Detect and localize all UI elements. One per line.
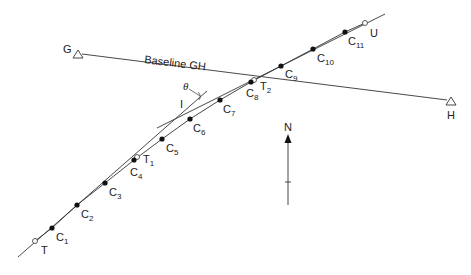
label-c2: C2 — [81, 208, 94, 223]
point-c4 — [131, 157, 136, 162]
point-c11 — [342, 29, 347, 34]
label-c8: C8 — [246, 87, 259, 102]
label-h: H — [447, 109, 455, 121]
point-c3 — [102, 180, 107, 185]
point-c2 — [74, 202, 79, 207]
baseline-label: Baseline GH — [144, 53, 207, 72]
label-t: T — [41, 244, 48, 256]
point-c7 — [217, 97, 222, 102]
label-u: U — [370, 27, 378, 39]
label-c4: C4 — [130, 166, 143, 181]
label-c6: C6 — [193, 122, 206, 137]
baseline-gh — [82, 54, 447, 100]
label-i: I — [180, 98, 183, 110]
point-c5 — [159, 136, 164, 141]
label-g: G — [63, 43, 72, 55]
station-g-triangle-icon — [73, 50, 83, 58]
point-c1 — [49, 225, 54, 230]
point-c8 — [248, 79, 253, 84]
survey-diagram: G H Baseline GH θ I T T1 T2 U C1 C2 C3 C… — [0, 0, 471, 275]
station-h-triangle-icon — [446, 97, 456, 105]
label-t2: T2 — [260, 80, 272, 95]
north-label: N — [284, 121, 292, 133]
label-c11: C11 — [348, 35, 365, 50]
point-u — [363, 21, 368, 26]
point-t — [33, 239, 38, 244]
label-c3: C3 — [109, 186, 122, 201]
label-c10: C10 — [317, 52, 334, 67]
north-arrow-icon — [285, 134, 292, 205]
theta-label: θ — [183, 80, 189, 92]
label-c5: C5 — [166, 142, 179, 157]
point-c9 — [278, 63, 283, 68]
point-c6 — [187, 116, 192, 121]
point-c10 — [310, 46, 315, 51]
label-t1: T1 — [143, 153, 155, 168]
label-c7: C7 — [223, 103, 236, 118]
label-c1: C1 — [56, 231, 69, 246]
